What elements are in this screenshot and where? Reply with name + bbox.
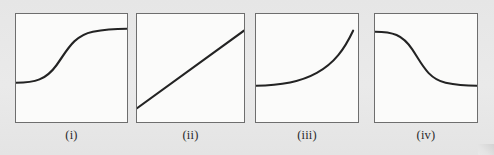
multi-panel-curve-figure: (i) (ii) (iii) (iv) (0, 0, 494, 155)
panel-i-plot-area (16, 14, 127, 122)
panel-label-ii: (ii) (136, 128, 245, 142)
panel-label-i: (i) (15, 128, 128, 142)
panel-iii-convex-increasing (255, 13, 359, 123)
panel-label-iii: (iii) (255, 128, 359, 142)
panel-iv-plot-area (375, 14, 477, 122)
curve-increasing-sigmoid (16, 29, 127, 83)
curve-convex-increasing-exponential (256, 31, 353, 86)
panel-label-iv: (iv) (374, 128, 478, 142)
panel-ii-plot-area (137, 14, 244, 122)
curve-decreasing-sigmoid (375, 32, 477, 86)
panel-iv-decreasing-sigmoid (374, 13, 478, 123)
page-corner-fold-decoration (478, 144, 494, 155)
panel-iii-plot-area (256, 14, 358, 122)
curve-straight-increasing-line (137, 31, 244, 109)
panel-i-increasing-sigmoid (15, 13, 128, 123)
panel-ii-straight-line (136, 13, 245, 123)
